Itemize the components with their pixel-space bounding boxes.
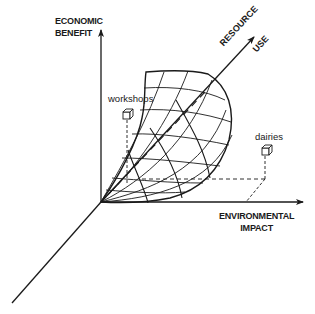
y-axis-label: ECONOMIC BENEFIT <box>55 15 103 39</box>
x-axis-label: ENVIRONMENTAL IMPACT <box>219 210 294 234</box>
dairies-label: dairies <box>255 131 283 142</box>
resource-use-dashed <box>101 92 205 202</box>
dairies-marker <box>140 145 272 202</box>
negative-axis-line <box>12 202 101 303</box>
workshops-label: workshops <box>108 93 153 104</box>
y-axis-label-line1: ECONOMIC <box>55 15 103 27</box>
diagram-canvas <box>0 0 315 314</box>
x-axis-label-line1: ENVIRONMENTAL <box>219 210 294 222</box>
solution-surface <box>101 71 232 203</box>
x-axis-label-line2: IMPACT <box>219 222 294 234</box>
y-axis-label-line2: BENEFIT <box>55 27 103 39</box>
